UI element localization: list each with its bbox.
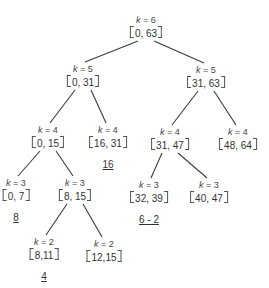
tree-node: k = 332, 39	[130, 180, 168, 204]
tree-edge	[172, 91, 198, 125]
right-bracket-icon	[158, 26, 162, 38]
tree-node: k = 50, 31	[67, 64, 99, 88]
right-bracket-icon	[54, 248, 58, 260]
right-bracket-icon	[185, 138, 189, 150]
tree-edge	[91, 90, 106, 123]
tree-node: k = 340, 47	[190, 180, 228, 204]
left-bracket-icon	[3, 189, 7, 201]
interval-text: 0, 63	[135, 28, 157, 39]
left-bracket-icon	[32, 136, 36, 148]
node-k-label: k = 2	[86, 239, 121, 249]
node-k-label: k = 4	[89, 125, 127, 135]
node-interval: 0, 7	[3, 189, 30, 202]
node-interval: 48, 64	[219, 138, 257, 151]
left-bracket-icon	[89, 136, 93, 148]
node-interval: 0, 31	[67, 75, 99, 88]
right-bracket-icon	[164, 191, 168, 203]
node-interval: 8, 15	[59, 189, 91, 202]
interval-text: 40, 47	[195, 193, 223, 204]
interval-text: 32, 39	[135, 193, 163, 204]
node-interval: 31, 63	[187, 76, 225, 89]
tree-node: k = 28,11	[30, 237, 59, 261]
node-interval: 0, 15	[32, 136, 64, 149]
right-bracket-icon	[87, 189, 91, 201]
tree-node: k = 60, 63	[130, 15, 162, 39]
node-annotation: 16	[102, 159, 113, 170]
node-k-label: k = 6	[130, 15, 162, 25]
interval-text: 8, 15	[64, 191, 86, 202]
interval-text: 0, 31	[72, 77, 94, 88]
tree-node: k = 416, 31	[89, 125, 127, 149]
tree-edge	[83, 204, 102, 237]
tree-edge	[46, 204, 67, 235]
left-bracket-icon	[59, 189, 63, 201]
right-bracket-icon	[25, 189, 29, 201]
node-k-label: k = 4	[151, 127, 189, 137]
right-bracket-icon	[224, 191, 228, 203]
tree-node: k = 212,15	[86, 239, 121, 263]
node-k-label: k = 4	[219, 127, 257, 137]
left-bracket-icon	[30, 248, 34, 260]
node-k-label: k = 4	[32, 125, 64, 135]
interval-text: 31, 63	[192, 78, 220, 89]
node-k-label: k = 3	[130, 180, 168, 190]
node-k-label: k = 2	[30, 237, 59, 247]
interval-text: 31, 47	[156, 140, 184, 151]
tree-edge	[18, 151, 40, 176]
tree-node: k = 30, 7	[3, 178, 30, 202]
tree-node: k = 40, 15	[32, 125, 64, 149]
node-interval: 31, 47	[151, 138, 189, 151]
right-bracket-icon	[60, 136, 64, 148]
left-bracket-icon	[130, 191, 134, 203]
node-interval: 32, 39	[130, 191, 168, 204]
node-k-label: k = 3	[59, 178, 91, 188]
interval-text: 0, 7	[8, 191, 25, 202]
node-annotation: 4	[41, 271, 47, 282]
left-bracket-icon	[86, 250, 90, 262]
tree-edge	[214, 91, 236, 125]
node-interval: 0, 63	[130, 26, 162, 39]
node-interval: 16, 31	[89, 136, 127, 149]
left-bracket-icon	[130, 26, 134, 38]
node-annotation: 6 - 2	[139, 214, 159, 225]
left-bracket-icon	[190, 191, 194, 203]
right-bracket-icon	[123, 136, 127, 148]
interval-text: 12,15	[91, 252, 116, 263]
node-interval: 40, 47	[190, 191, 228, 204]
node-interval: 12,15	[86, 250, 121, 263]
node-interval: 8,11	[30, 248, 59, 261]
right-bracket-icon	[221, 76, 225, 88]
interval-text: 48, 64	[224, 140, 252, 151]
left-bracket-icon	[219, 138, 223, 150]
left-bracket-icon	[187, 76, 191, 88]
interval-text: 0, 15	[37, 138, 59, 149]
tree-edge	[85, 41, 138, 62]
node-k-label: k = 5	[187, 65, 225, 75]
interval-text: 16, 31	[94, 138, 122, 149]
interval-text: 8,11	[35, 250, 54, 261]
tree-edge	[178, 153, 207, 178]
tree-edge	[154, 41, 204, 63]
right-bracket-icon	[253, 138, 257, 150]
node-k-label: k = 3	[190, 180, 228, 190]
tree-edge	[151, 153, 162, 178]
tree-edge	[56, 151, 73, 176]
left-bracket-icon	[67, 75, 71, 87]
node-k-label: k = 5	[67, 64, 99, 74]
tree-node: k = 38, 15	[59, 178, 91, 202]
node-k-label: k = 3	[3, 178, 30, 188]
right-bracket-icon	[95, 75, 99, 87]
tree-node: k = 431, 47	[151, 127, 189, 151]
left-bracket-icon	[151, 138, 155, 150]
tree-edge	[50, 90, 75, 123]
tree-node: k = 531, 63	[187, 65, 225, 89]
right-bracket-icon	[118, 250, 122, 262]
tree-node: k = 448, 64	[219, 127, 257, 151]
node-annotation: 8	[13, 212, 19, 223]
